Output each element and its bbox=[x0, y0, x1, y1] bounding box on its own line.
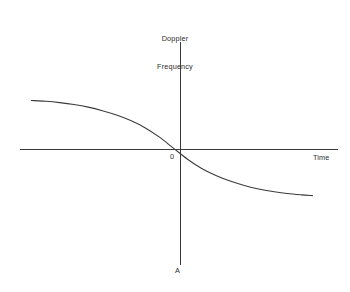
y-axis-label-line-1: Doppler bbox=[0, 34, 350, 43]
origin-label: 0 bbox=[170, 152, 174, 161]
doppler-frequency-figure: Doppler Frequency Time 0 A bbox=[0, 0, 350, 292]
y-axis-label-line-2: Frequency bbox=[0, 62, 350, 71]
doppler-curve bbox=[31, 100, 312, 195]
y-axis-label: Doppler Frequency bbox=[0, 15, 350, 90]
bottom-axis-marker-label: A bbox=[175, 266, 180, 275]
x-axis-label: Time bbox=[313, 153, 330, 162]
